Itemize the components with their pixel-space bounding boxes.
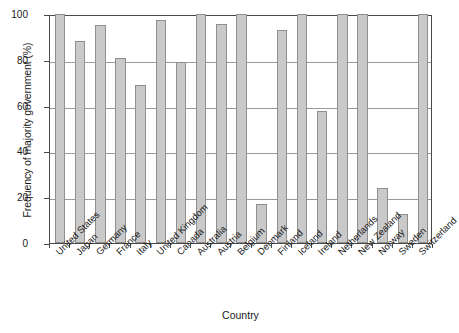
bar	[236, 14, 246, 243]
bars-layer	[50, 16, 431, 243]
plot-area	[49, 15, 432, 244]
bar	[357, 14, 367, 243]
bar	[115, 58, 125, 243]
bar	[216, 24, 226, 243]
bar	[337, 14, 347, 243]
bar	[176, 62, 186, 243]
bar	[135, 85, 145, 243]
y-tick-label: 80	[6, 56, 28, 66]
y-tick-label: 40	[6, 147, 28, 157]
y-tick-label: 100	[6, 10, 28, 20]
bar	[95, 25, 105, 243]
y-tick-label: 20	[6, 193, 28, 203]
x-tick-mark	[49, 244, 50, 248]
bar	[277, 30, 287, 243]
y-axis-title: Frequency of majority government (%)	[18, 14, 36, 246]
bar	[75, 41, 85, 243]
bar	[297, 14, 307, 243]
bar	[156, 20, 166, 243]
x-axis-title: Country	[49, 309, 432, 321]
y-tick-label: 0	[6, 239, 28, 249]
bar	[418, 14, 428, 243]
bar	[317, 111, 327, 243]
bar	[55, 14, 65, 243]
y-tick-label: 60	[6, 102, 28, 112]
